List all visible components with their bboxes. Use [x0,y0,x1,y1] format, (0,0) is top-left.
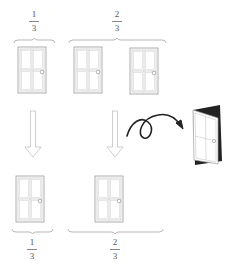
top-door-3 [130,48,158,94]
bottom-brace-two-thirds [68,229,163,234]
down-arrow-middle [107,111,123,157]
top-door-2 [74,47,102,93]
bottom-door-left [16,176,44,222]
top-brace-one-third [14,38,55,43]
bottom-door-middle [95,176,123,222]
down-arrow-left [25,111,41,157]
top-door-1 [18,47,46,93]
curly-arrow-icon [127,115,183,139]
opened-door-icon [193,105,222,165]
top-brace-two-thirds [69,38,166,43]
bottom-brace-one-third [12,229,53,234]
